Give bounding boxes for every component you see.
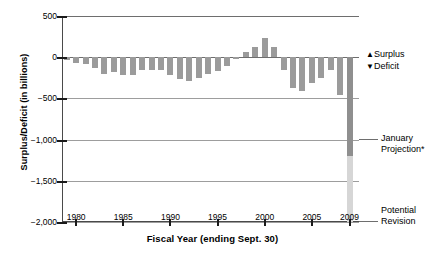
triangle-up-icon: ▲ — [366, 50, 374, 59]
bar-2002 — [281, 57, 287, 70]
bar-1980 — [73, 57, 79, 63]
gridline — [62, 16, 359, 17]
annotation-january-projection: January Projection* — [381, 133, 425, 155]
legend: ▲Surplus ▼Deficit — [366, 49, 404, 72]
annotation-potential-revision: Potential Revision — [381, 205, 416, 227]
bar-1988 — [149, 57, 155, 70]
bar-2003 — [290, 57, 296, 88]
bar-1997 — [233, 57, 239, 59]
bar-2007 — [328, 57, 334, 70]
x-axis-title: Fiscal Year (ending Sept. 30) — [0, 233, 425, 244]
y-axis-tick — [57, 16, 67, 18]
legend-label-surplus: Surplus — [374, 49, 405, 59]
bar-1983 — [101, 57, 107, 74]
x-axis-tick-label: 2005 — [292, 212, 332, 222]
y-axis-tick-label: 0 — [52, 52, 57, 62]
bar-1987 — [139, 57, 145, 69]
bar-2001 — [271, 47, 277, 58]
bar-1991 — [177, 57, 183, 79]
triangle-down-icon: ▼ — [366, 62, 374, 71]
bar-1985 — [120, 57, 126, 74]
bar-1984 — [111, 57, 117, 72]
y-axis-tick — [57, 98, 67, 100]
legend-label-deficit: Deficit — [374, 61, 399, 71]
annotation-potential-revision-line2: Revision — [381, 216, 416, 227]
y-axis-tick — [57, 222, 67, 224]
leader-line-january-projection — [359, 139, 378, 140]
bar-1982 — [92, 57, 98, 68]
y-axis-tick-label: −500 — [38, 93, 57, 103]
bar-2008 — [337, 57, 343, 94]
bar-2006 — [318, 57, 324, 77]
legend-item-surplus: ▲Surplus — [366, 49, 404, 61]
y-axis-tick-label: −1,000 — [31, 135, 57, 145]
bar-1986 — [130, 57, 136, 75]
gridline — [62, 222, 359, 223]
x-axis-tick-label: 1980 — [56, 212, 96, 222]
gridline — [62, 140, 359, 141]
bar-1989 — [158, 57, 164, 70]
annotation-january-projection-line1: January — [381, 133, 425, 144]
x-axis-tick-label: 1995 — [198, 212, 238, 222]
gridline — [62, 98, 359, 99]
legend-item-deficit: ▼Deficit — [366, 61, 404, 73]
bar-1999 — [252, 47, 258, 57]
annotation-january-projection-line2: Projection* — [381, 144, 425, 155]
chart-figure: Surplus/Deficit (in billions) 5000−500−1… — [0, 0, 425, 269]
leader-line-potential-revision — [359, 221, 378, 222]
gridline — [62, 181, 359, 182]
bar-1992 — [186, 57, 192, 81]
bar-2005 — [309, 57, 315, 83]
y-axis-tick — [57, 140, 67, 142]
bar-2009-january-projection — [347, 57, 353, 156]
bar-1993 — [196, 57, 202, 78]
bar-1990 — [167, 57, 173, 75]
bar-2004 — [299, 57, 305, 91]
annotation-potential-revision-line1: Potential — [381, 205, 416, 216]
bar-1998 — [243, 52, 249, 58]
bar-1995 — [215, 57, 221, 71]
y-axis-tick — [57, 181, 67, 183]
bar-1994 — [205, 57, 211, 74]
x-axis-tick-label: 1985 — [103, 212, 143, 222]
bar-1996 — [224, 57, 230, 66]
y-axis-tick-label: −1,500 — [31, 176, 57, 186]
x-axis-tick-label: 1990 — [150, 212, 190, 222]
bar-2000 — [262, 38, 268, 57]
y-axis-tick-label: −2,000 — [31, 217, 57, 227]
bar-1981 — [83, 57, 89, 64]
x-axis-tick-label: 2000 — [245, 212, 285, 222]
y-axis-tick-label: 500 — [43, 11, 57, 21]
y-axis-line — [62, 16, 63, 222]
plot-area — [62, 16, 359, 222]
y-axis-title: Surplus/Deficit (in billions) — [19, 22, 29, 202]
y-axis-tick — [57, 57, 67, 59]
